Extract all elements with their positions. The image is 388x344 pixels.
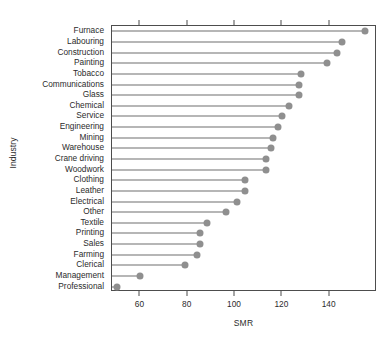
x-axis-tick-bottom [186,291,187,296]
dot-chart-figure: Industry FurnaceLabouringConstructionPai… [0,0,388,344]
row-rule [112,52,337,53]
x-axis-tick-top [281,20,282,25]
x-axis-tick-label: 100 [227,299,241,309]
data-point [295,92,302,99]
category-label: Mining [80,132,104,141]
data-point [338,38,345,45]
plot-panel [111,25,376,291]
category-label: Woodwork [65,164,104,173]
data-point [262,156,269,163]
data-point [137,273,144,280]
x-axis-tick-label: 140 [322,299,336,309]
category-label: Chemical [69,100,104,109]
data-point [274,124,281,131]
category-label: Farming [74,249,104,258]
category-label: Furnace [74,26,104,35]
data-point [234,198,241,205]
x-axis-tick-top [234,20,235,25]
x-axis-tick-top [186,20,187,25]
row-rule [112,201,237,202]
category-label: Other [83,207,104,216]
data-point [298,70,305,77]
category-label-column: FurnaceLabouringConstructionPaintingToba… [0,25,108,291]
row-rule [112,41,342,42]
data-point [286,102,293,109]
data-point [194,251,201,258]
category-label: Construction [57,47,104,56]
category-label: Printing [76,228,104,237]
data-point [182,262,189,269]
category-label: Service [76,111,104,120]
x-axis-tick-bottom [328,291,329,296]
row-rule [112,180,245,181]
row-rule [112,84,299,85]
category-label: Clothing [74,175,104,184]
data-point [262,166,269,173]
row-rule [112,265,185,266]
category-label: Professional [58,281,104,290]
data-point [196,241,203,248]
data-point [196,230,203,237]
row-rule [112,222,207,223]
x-axis-tick-bottom [234,291,235,296]
x-axis-tick-label: 120 [274,299,288,309]
row-rule [112,148,271,149]
category-label: Engineering [60,122,104,131]
data-point [241,187,248,194]
category-label: Electrical [70,196,104,205]
data-point [295,81,302,88]
data-point [362,28,369,35]
category-label: Communications [42,79,104,88]
row-rule [112,169,266,170]
caption-sliver [0,336,388,344]
row-rule [112,95,299,96]
data-point [203,219,210,226]
category-label: Painting [74,58,104,67]
row-rule [112,233,200,234]
row-rule [112,190,245,191]
x-axis-tick-top [139,20,140,25]
row-rule [112,127,278,128]
row-rule [112,73,301,74]
category-label: Sales [83,239,104,248]
plot-inner [112,26,375,290]
data-point [333,49,340,56]
category-label: Leather [76,185,104,194]
data-point [241,177,248,184]
row-rule [112,254,197,255]
data-point [269,134,276,141]
category-label: Labouring [67,36,104,45]
category-label: Crane driving [55,154,104,163]
category-label: Clerical [76,260,104,269]
row-rule [112,244,200,245]
data-point [324,60,331,67]
category-label: Management [56,271,104,280]
row-rule [112,159,266,160]
row-rule [112,63,327,64]
x-axis-title: SMR [111,318,376,328]
row-rule [112,116,282,117]
x-axis-tick-top [328,20,329,25]
category-label: Tobacco [73,68,104,77]
x-axis-tick-bottom [139,291,140,296]
data-point [267,145,274,152]
x-axis-tick-label: 60 [135,299,144,309]
x-axis-tick-label: 80 [182,299,191,309]
category-label: Textile [80,217,104,226]
category-label: Glass [83,90,104,99]
data-point [279,113,286,120]
row-rule [112,137,273,138]
row-rule [112,212,226,213]
data-point [222,209,229,216]
category-label: Warehouse [62,143,104,152]
row-rule [112,105,289,106]
x-axis-tick-bottom [281,291,282,296]
data-point [113,283,120,290]
row-rule [112,31,365,32]
